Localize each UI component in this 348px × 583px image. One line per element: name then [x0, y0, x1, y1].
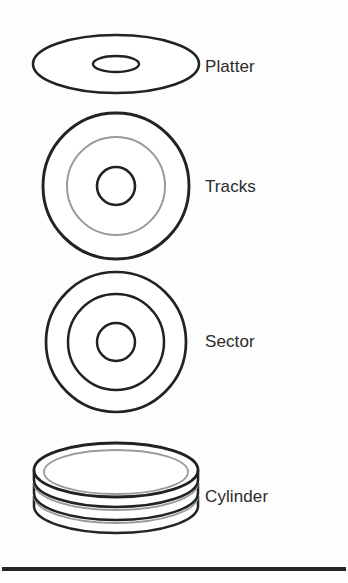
label-tracks: Tracks — [205, 178, 256, 195]
tracks-graphic — [43, 113, 189, 259]
sector-graphic — [46, 272, 186, 412]
platter-spindle-hole — [93, 56, 139, 72]
figure-svg — [0, 0, 348, 583]
platter-graphic — [33, 35, 199, 93]
label-cylinder: Cylinder — [205, 488, 268, 505]
cylinder-top-face — [34, 443, 198, 497]
cylinder-graphic — [34, 443, 198, 533]
tracks-inner-circle — [97, 167, 135, 205]
label-platter: Platter — [205, 58, 255, 75]
sector-inner-circle — [97, 323, 135, 361]
figure-root: Platter Tracks Sector Cylinder — [0, 0, 348, 583]
label-sector: Sector — [205, 333, 255, 350]
